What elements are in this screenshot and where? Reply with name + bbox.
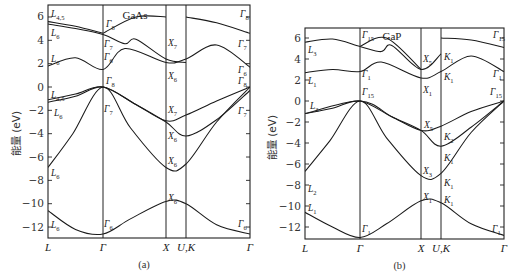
symmetry-label: X6	[167, 156, 178, 168]
symmetry-label: Γ7	[103, 39, 113, 51]
k-point-label: U,K	[177, 241, 196, 253]
symmetry-label: Γ6	[103, 52, 113, 64]
symmetry-label: K1	[443, 195, 454, 207]
symmetry-label: X7	[167, 105, 178, 117]
y-tick-label: −2	[286, 116, 301, 128]
band-band6	[48, 24, 186, 63]
symmetry-label: L6	[50, 28, 60, 40]
symmetry-label: Γ6	[237, 219, 247, 231]
y-tick-label: −10	[22, 197, 44, 209]
y-tick-label: 0	[294, 95, 301, 107]
symmetry-label: X6	[167, 71, 178, 83]
symmetry-label: Γ7	[237, 106, 247, 118]
y-axis-label: 能量 (eV)	[10, 111, 22, 156]
band-band9	[186, 17, 250, 33]
symmetry-label: Γ8	[239, 9, 249, 21]
symmetry-label: L1	[307, 76, 317, 88]
y-tick-label: −4	[286, 137, 302, 149]
symmetry-label: L6	[50, 220, 60, 232]
y-tick-label: 6	[37, 10, 44, 22]
plot-frame	[48, 5, 250, 238]
symmetry-label: Γ15	[489, 87, 502, 99]
symmetry-label: Γ7	[103, 104, 113, 116]
symmetry-label: Γ1	[361, 224, 371, 236]
y-axis-label: 能量 (eV)	[266, 115, 278, 160]
y-tick-label: −6	[29, 151, 45, 163]
symmetry-label: L6	[50, 54, 60, 66]
y-tick-label: −8	[286, 179, 301, 191]
y-tick-label: −12	[22, 221, 44, 233]
band-band5	[305, 56, 504, 78]
y-tick-label: −10	[279, 200, 301, 212]
band-band5	[48, 45, 250, 70]
material-label: GaP	[383, 30, 402, 42]
symmetry-label: K1	[443, 72, 454, 84]
symmetry-label: Γ6	[103, 219, 113, 231]
symmetry-label: Γ6	[237, 65, 247, 77]
symmetry-label: Γ1	[361, 69, 371, 81]
panel-caption: (a)	[138, 259, 150, 271]
symmetry-label: Γ15	[361, 30, 374, 42]
symmetry-label: X5	[422, 54, 432, 66]
symmetry-label: Γ1	[491, 224, 501, 236]
k-point-label: X	[162, 241, 171, 253]
band-band4	[48, 87, 250, 122]
y-tick-label: 4	[37, 34, 44, 46]
band-band3	[48, 87, 250, 136]
symmetry-label: X1	[422, 85, 432, 97]
band-structure-figure: 6420−2−4−6−8−10−12LΓXU,KΓ(a)GaAsL4,5L6L6…	[0, 0, 513, 276]
k-point-label: Γ	[356, 242, 364, 254]
symmetry-label: Γ15	[492, 30, 505, 42]
y-tick-label: −6	[286, 158, 302, 170]
symmetry-label: Γ8	[105, 76, 115, 88]
symmetry-label: L4,5	[50, 9, 64, 21]
y-tick-label: −2	[29, 104, 44, 116]
k-point-label: L	[44, 241, 51, 253]
symmetry-label: X7	[167, 38, 178, 50]
symmetry-label: X1	[422, 192, 432, 204]
symmetry-label: X5	[423, 120, 433, 132]
k-point-label: Γ	[246, 241, 254, 253]
symmetry-label: Γ1	[492, 69, 502, 81]
symmetry-label: K1	[443, 153, 454, 165]
k-point-label: Γ	[99, 241, 107, 253]
k-point-label: Γ	[500, 242, 508, 254]
panel-gaas: 6420−2−4−6−8−10−12LΓXU,KΓ(a)GaAsL4,5L6L6…	[10, 5, 254, 271]
symmetry-label: Γ15	[361, 87, 374, 99]
panel-caption: (b)	[393, 260, 406, 272]
symmetry-label: L4,5	[50, 90, 64, 102]
symmetry-label: X3	[422, 166, 432, 178]
y-tick-label: 0	[37, 81, 44, 93]
y-tick-label: −4	[29, 127, 45, 139]
symmetry-label: L6	[53, 108, 63, 120]
y-tick-label: −12	[279, 221, 301, 233]
band-band4	[305, 101, 504, 131]
panel-gap: 6420−2−4−6−8−10−12LΓXU,KΓ(b)GaPL3L1L3L2L…	[266, 28, 508, 272]
symmetry-label: X6	[167, 131, 178, 143]
material-label: GaAs	[122, 9, 147, 21]
y-tick-label: 2	[37, 57, 44, 69]
y-tick-label: 6	[294, 32, 301, 44]
symmetry-label: L3	[307, 45, 317, 57]
symmetry-label: L6	[50, 168, 60, 180]
symmetry-label: K1	[443, 52, 454, 64]
band-curves	[305, 37, 504, 237]
symmetry-label: L2	[307, 184, 317, 196]
k-point-label: L	[301, 242, 308, 254]
band-band1	[305, 199, 504, 238]
symmetry-label: Γ7	[237, 39, 247, 51]
symmetry-label: Γ8	[237, 76, 247, 88]
k-point-label: U,K	[432, 242, 451, 254]
symmetry-label: L3	[309, 101, 319, 113]
band-band2	[305, 101, 504, 179]
symmetry-label: X6	[167, 193, 178, 205]
y-tick-label: 4	[294, 53, 301, 65]
y-tick-label: 2	[294, 74, 301, 86]
y-tick-label: −8	[29, 174, 44, 186]
band-curves	[48, 16, 250, 235]
symmetry-label: K2	[443, 132, 454, 144]
band-band1	[48, 200, 250, 235]
k-point-label: X	[417, 242, 426, 254]
symmetry-label: Γ8	[105, 19, 115, 31]
symmetry-label: L1	[307, 203, 317, 215]
